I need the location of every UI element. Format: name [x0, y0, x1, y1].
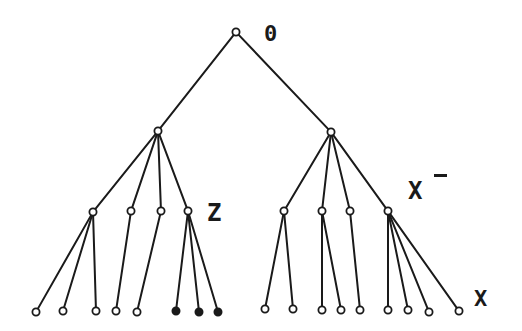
x-minus-label: X: [408, 174, 447, 205]
hollow-node: [318, 207, 325, 214]
hollow-node: [384, 207, 391, 214]
tree-edge: [390, 214, 457, 308]
tree-edge: [38, 215, 91, 309]
z-label: Z: [207, 199, 221, 227]
tree-edge: [322, 136, 330, 208]
hollow-node: [384, 306, 391, 313]
tree-edge: [176, 215, 187, 308]
tree-edges: [38, 35, 457, 309]
x-label: X: [474, 286, 487, 311]
hollow-node: [89, 208, 96, 215]
tree-edge: [238, 35, 328, 130]
hollow-node: [425, 308, 432, 315]
hollow-node: [327, 128, 334, 135]
tree-edge: [323, 215, 341, 307]
filled-node: [195, 308, 202, 315]
root-label: 0: [264, 21, 277, 46]
hollow-node: [356, 306, 363, 313]
tree-edge: [93, 216, 96, 308]
hollow-node: [318, 306, 325, 313]
hollow-node: [337, 306, 344, 313]
filled-node: [214, 308, 221, 315]
hollow-node: [404, 306, 411, 313]
x-minus-label-base: X: [408, 177, 423, 205]
tree-diagram: 0 Z X X: [0, 0, 522, 331]
hollow-node: [154, 127, 161, 134]
hollow-node: [59, 307, 66, 314]
tree-edge: [132, 134, 157, 207]
hollow-node: [232, 28, 239, 35]
tree-edge: [389, 215, 408, 307]
tree-edge: [284, 215, 292, 306]
tree-edge: [350, 215, 359, 307]
tree-edge: [389, 214, 427, 308]
hollow-node: [346, 207, 353, 214]
hollow-node: [32, 308, 39, 315]
hollow-node: [157, 207, 164, 214]
hollow-node: [280, 207, 287, 214]
tree-edge: [95, 134, 155, 209]
tree-edge: [158, 135, 161, 208]
hollow-node: [455, 307, 462, 314]
filled-node: [172, 307, 179, 314]
hollow-node: [133, 308, 140, 315]
hollow-node: [127, 207, 134, 214]
hollow-node: [184, 207, 191, 214]
tree-nodes: [32, 28, 462, 315]
tree-edge: [64, 215, 92, 307]
hollow-node: [289, 305, 296, 312]
tree-edge: [117, 215, 131, 308]
hollow-node: [92, 307, 99, 314]
x-minus-superscript-bar: [434, 174, 447, 177]
hollow-node: [261, 305, 268, 312]
tree-edge: [266, 215, 284, 306]
tree-edge: [159, 134, 186, 207]
tree-edge: [160, 35, 234, 128]
tree-edge: [138, 215, 160, 309]
hollow-node: [112, 307, 119, 314]
